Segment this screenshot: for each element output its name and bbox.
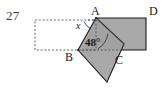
vertex-dot-b (77, 49, 79, 51)
vertex-label-d: D (149, 5, 158, 17)
geometry-canvas (0, 0, 166, 89)
vertex-label-c: C (115, 54, 123, 66)
angle-label-x: x (76, 21, 80, 31)
vertex-label-a: A (91, 5, 100, 17)
angle-arc-x (84, 22, 91, 29)
geometry-figure: 27 A B C D x 48° (0, 0, 166, 89)
problem-number: 27 (6, 9, 19, 22)
angle-label-48: 48° (85, 37, 100, 48)
vertex-label-b: B (65, 51, 73, 63)
